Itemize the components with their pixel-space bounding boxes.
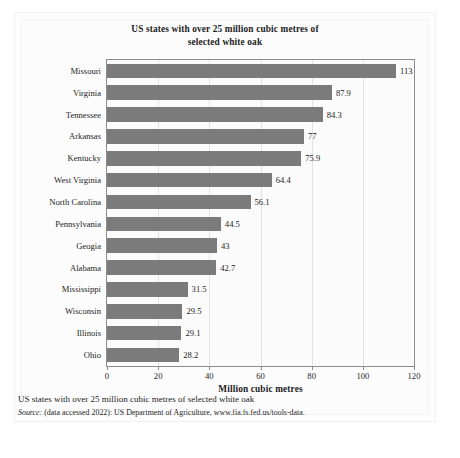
bar: [107, 326, 181, 341]
x-axis-tick-label: 60: [256, 371, 265, 381]
bar-row: North Carolina56.1: [107, 191, 414, 213]
category-label: Kentucky: [68, 153, 101, 163]
bar: [107, 173, 272, 188]
chart-title-line-2: selected white oak: [55, 36, 395, 49]
bar-row: Kentucky75.9: [107, 147, 414, 169]
bar-value-label: 29.5: [182, 306, 201, 316]
bar: [107, 217, 221, 232]
bar-value-label: 64.4: [272, 175, 291, 185]
bar-row: Pennsylvania44.5: [107, 213, 414, 235]
bar-value-label: 28.2: [179, 350, 198, 360]
bar-value-label: 29.1: [181, 328, 200, 338]
bar-value-label: 87.9: [332, 88, 351, 98]
x-axis-tick-label: 100: [356, 371, 369, 381]
category-label: Illinois: [77, 328, 101, 338]
figure-frame: US states with over 25 million cubic met…: [14, 12, 436, 422]
bar: [107, 195, 251, 210]
source-line: Source: (data accessed 2022): US Departm…: [18, 407, 408, 419]
bar: [107, 348, 179, 363]
bar-row: Wisconsin29.5: [107, 300, 414, 322]
bar-row: Alabama42.7: [107, 257, 414, 279]
category-label: North Carolina: [49, 197, 101, 207]
bar: [107, 260, 216, 275]
bar: [107, 64, 396, 79]
chart-title: US states with over 25 million cubic met…: [55, 23, 395, 48]
bar-value-label: 31.5: [188, 284, 207, 294]
bar-value-label: 84.3: [323, 110, 342, 120]
bar-row: Missouri113: [107, 60, 414, 82]
category-label: Geogia: [76, 241, 101, 251]
bar-row: Arkansas77: [107, 126, 414, 148]
category-label: Pennsylvania: [55, 219, 101, 229]
bar-row: Ohio28.2: [107, 344, 414, 366]
category-label: West Virginia: [54, 175, 101, 185]
bar: [107, 129, 304, 144]
x-axis-tick-label: 40: [205, 371, 214, 381]
category-label: Alabama: [70, 263, 101, 273]
bar: [107, 151, 301, 166]
bar: [107, 85, 332, 100]
category-label: Missouri: [70, 66, 101, 76]
bar-row: Tennessee84.3: [107, 104, 414, 126]
x-axis-tick: [414, 366, 415, 370]
x-axis-tick-label: 80: [307, 371, 316, 381]
x-axis-tick-label: 120: [408, 371, 421, 381]
category-label: Mississippi: [62, 284, 101, 294]
chart-title-line-1: US states with over 25 million cubic met…: [55, 23, 395, 36]
bar: [107, 282, 188, 297]
plot-area: Missouri113Virginia87.9Tennessee84.3Arka…: [106, 59, 415, 367]
x-axis-tick: [209, 366, 210, 370]
category-label: Tennessee: [66, 110, 101, 120]
bar-value-label: 77: [304, 131, 317, 141]
category-label: Ohio: [84, 350, 101, 360]
bar-value-label: 44.5: [221, 219, 240, 229]
x-axis-tick-label: 0: [105, 371, 109, 381]
bar: [107, 238, 217, 253]
x-axis-tick: [312, 366, 313, 370]
source-label: Source:: [18, 408, 42, 417]
bar-value-label: 43: [217, 241, 230, 251]
x-axis-tick: [158, 366, 159, 370]
x-axis-tick: [107, 366, 108, 370]
category-label: Virginia: [73, 88, 101, 98]
source-text: (data accessed 2022): US Department of A…: [42, 408, 304, 417]
caption-text: US states with over 25 million cubic met…: [18, 393, 408, 406]
bar-value-label: 56.1: [251, 197, 270, 207]
x-axis-tick-label: 20: [154, 371, 163, 381]
bar-value-label: 75.9: [301, 153, 320, 163]
bar-value-label: 113: [396, 66, 413, 76]
bar-row: Virginia87.9: [107, 82, 414, 104]
bar: [107, 304, 182, 319]
bar-row: Illinois29.1: [107, 322, 414, 344]
bar-row: Mississippi31.5: [107, 279, 414, 301]
x-axis-tick: [363, 366, 364, 370]
category-label: Arkansas: [69, 131, 101, 141]
bar: [107, 107, 323, 122]
x-axis-tick: [261, 366, 262, 370]
bar-value-label: 42.7: [216, 263, 235, 273]
bar-row: West Virginia64.4: [107, 169, 414, 191]
caption-block: US states with over 25 million cubic met…: [18, 393, 408, 419]
category-label: Wisconsin: [65, 306, 101, 316]
bar-row: Geogia43: [107, 235, 414, 257]
